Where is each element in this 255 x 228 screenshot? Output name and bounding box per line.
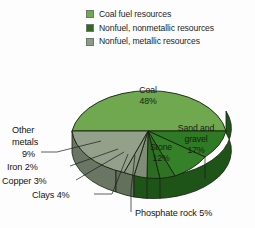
slice-label-sand-and-gravel-name-1: Sand and	[178, 123, 215, 133]
callout-other-metals-line2: metals	[12, 137, 39, 147]
callout-phosphate-rock: Phosphate rock 5%	[135, 208, 212, 218]
callout-other-metals-line1: Other	[12, 125, 34, 135]
pie-chart-figure: Coal fuel resources Nonfuel, nonmetallic…	[0, 0, 255, 228]
slice-label-coal-name: Coal	[139, 85, 157, 95]
callout-clays: Clays 4%	[32, 190, 70, 200]
pie-chart-graphic: Coal 48% Sand and gravel 17% Stone 12% O…	[0, 0, 255, 228]
callout-iron: Iron 2%	[7, 162, 38, 172]
slice-label-sand-and-gravel-name-2: gravel	[184, 134, 207, 144]
callout-other-metals-value: 9%	[22, 149, 35, 159]
slice-label-coal-value: 48%	[139, 96, 156, 106]
slice-label-stone-name: Stone	[150, 142, 172, 152]
callout-copper: Copper 3%	[2, 176, 47, 186]
slice-label-sand-and-gravel-value: 17%	[187, 145, 204, 155]
slice-label-stone-value: 12%	[152, 153, 169, 163]
